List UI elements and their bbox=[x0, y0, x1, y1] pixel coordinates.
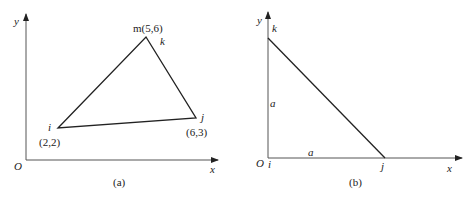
vertex-m-coords: m(5,6) bbox=[133, 22, 163, 35]
y-axis-label: y bbox=[256, 14, 262, 26]
triangle-element bbox=[58, 37, 196, 128]
diagram-canvas: y x O i (2,2) m(5,6) k j (6,3) (a) y x O… bbox=[0, 0, 473, 198]
vertex-j-coords: (6,3) bbox=[186, 126, 207, 139]
caption-a: (a) bbox=[113, 176, 126, 189]
origin-label: O bbox=[14, 160, 22, 172]
x-axis-label: x bbox=[446, 162, 452, 174]
vertex-k-label: k bbox=[160, 35, 166, 47]
hypotenuse bbox=[268, 38, 385, 158]
vertex-j-label: j bbox=[199, 111, 204, 123]
panel-a: y x O i (2,2) m(5,6) k j (6,3) (a) bbox=[13, 14, 218, 189]
vertex-i-coords: (2,2) bbox=[39, 136, 60, 149]
side-label-vertical: a bbox=[270, 97, 276, 109]
x-axis-label: x bbox=[209, 163, 215, 175]
side-label-horizontal: a bbox=[308, 146, 314, 158]
panel-b: y x O k i j a a (b) bbox=[256, 12, 462, 189]
y-axis-label: y bbox=[13, 15, 19, 27]
vertex-k-label: k bbox=[272, 22, 278, 34]
origin-label: O bbox=[256, 157, 264, 169]
vertex-i-label: i bbox=[48, 121, 51, 133]
vertex-i-label: i bbox=[268, 158, 271, 170]
caption-b: (b) bbox=[349, 176, 362, 189]
vertex-j-label: j bbox=[379, 160, 384, 172]
